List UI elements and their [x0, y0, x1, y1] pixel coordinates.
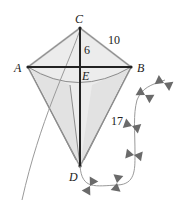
bow-icon — [155, 75, 174, 91]
point-B — [129, 65, 132, 68]
label-E: E — [82, 70, 89, 82]
kite-diagram: C A B E D 6 10 17 — [0, 0, 185, 206]
label-A: A — [14, 62, 21, 74]
point-A — [26, 65, 29, 68]
label-B: B — [137, 62, 144, 74]
measure-CB: 10 — [108, 34, 120, 46]
label-D: D — [69, 171, 78, 183]
bow-icon — [111, 174, 124, 191]
measure-CE: 6 — [84, 44, 90, 56]
measure-BD: 17 — [111, 115, 123, 127]
bow-icon — [125, 149, 142, 162]
kite-figure — [0, 0, 185, 206]
bow-icon — [123, 119, 141, 134]
point-C — [78, 26, 81, 29]
label-C: C — [75, 13, 83, 25]
